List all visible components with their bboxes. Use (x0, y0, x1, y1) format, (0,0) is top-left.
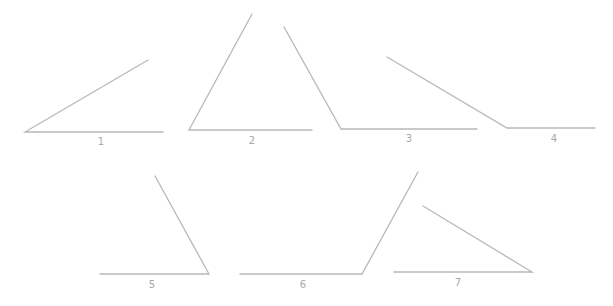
angle-3-rays (284, 27, 477, 129)
angle-7-label: 7 (455, 277, 461, 288)
angle-4-label: 4 (551, 133, 557, 144)
angle-2-label: 2 (249, 135, 255, 146)
angle-6: 6 (240, 172, 418, 290)
angles-diagram: 1 2 3 4 5 6 7 (0, 0, 613, 306)
angle-3: 3 (284, 27, 477, 144)
angle-5: 5 (100, 176, 209, 290)
angle-1-label: 1 (98, 136, 104, 147)
angle-2: 2 (189, 14, 312, 146)
angle-5-label: 5 (149, 279, 155, 290)
angle-1: 1 (25, 60, 163, 147)
angle-6-label: 6 (300, 279, 306, 290)
angle-1-rays (25, 60, 163, 132)
angle-7-rays (394, 206, 532, 272)
angle-4-rays (387, 57, 595, 128)
angle-3-label: 3 (406, 133, 412, 144)
angle-6-rays (240, 172, 418, 274)
angle-7: 7 (394, 206, 532, 288)
angle-5-rays (100, 176, 209, 274)
angle-2-rays (189, 14, 312, 130)
angle-4: 4 (387, 57, 595, 144)
